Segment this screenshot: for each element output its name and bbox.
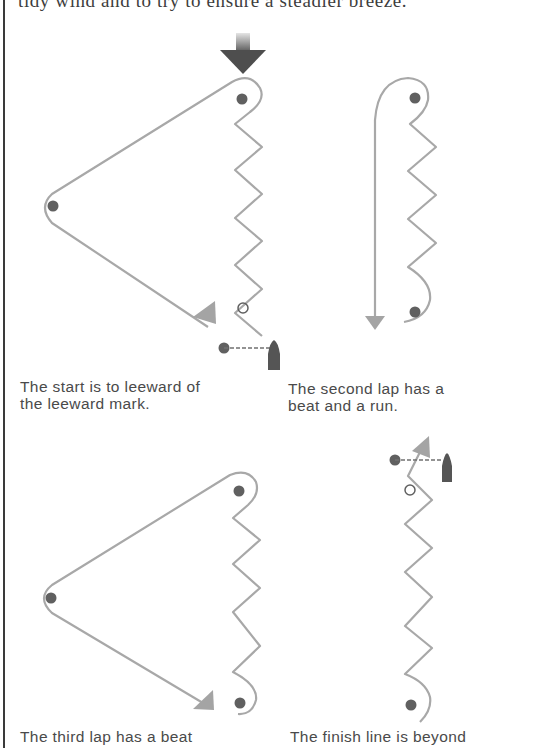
diagram-finish [390,436,453,722]
windward-mark-icon [237,94,248,105]
course-line [375,78,436,322]
diagram-second-lap [365,78,436,330]
leeward-mark-icon [235,698,246,709]
caption-line: The start is to leeward of [20,378,200,395]
caption-line: The third lap has a beat [20,728,192,745]
caption-third-lap: The third lap has a beat [20,728,192,745]
course-direction-arrow-icon [412,436,430,458]
course-line [45,78,262,336]
caption-line: the leeward mark. [20,395,200,412]
caption-finish: The finish line is beyond [290,728,466,745]
caption-line: The finish line is beyond [290,728,466,745]
course-line [405,452,432,722]
wind-direction-arrow-icon [220,33,266,74]
diagram-start [45,33,280,370]
windward-mark-icon [234,486,245,497]
caption-start: The start is to leeward of the leeward m… [20,378,200,412]
wing-mark-icon [48,201,59,212]
leeward-mark-icon [405,485,415,495]
committee-boat-icon [442,453,452,482]
caption-line: beat and a run. [288,397,444,414]
wing-mark-icon [46,593,57,604]
windward-mark-icon [406,700,417,711]
course-direction-arrow-icon [365,316,385,330]
course-diagrams [0,0,535,748]
caption-second-lap: The second lap has a beat and a run. [288,380,444,414]
windward-mark-icon [410,93,421,104]
caption-line: The second lap has a [288,380,444,397]
diagram-third-lap [44,473,260,714]
course-line [44,473,260,714]
committee-boat-icon [268,340,280,370]
leeward-mark-icon [410,307,421,318]
